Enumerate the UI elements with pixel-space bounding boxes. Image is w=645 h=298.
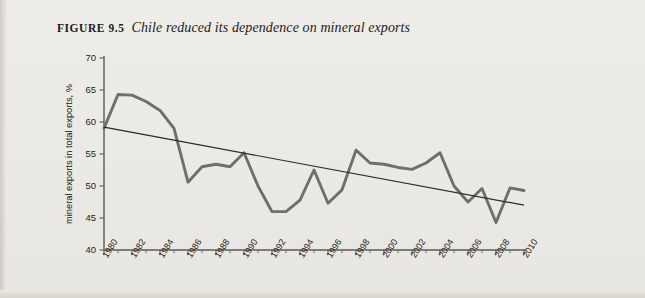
x-tick-label: 2002 [408,237,427,259]
x-tick-label: 1982 [128,237,147,259]
data-line [104,94,524,222]
figure-container: FIGURE 9.5Chile reduced its dependence o… [0,0,645,298]
line-chart-svg: 40455055606570 1980198219841986198819901… [0,0,645,298]
x-tick-label: 1992 [268,237,287,259]
x-tick-label: 2010 [520,237,539,259]
y-tick-label: 65 [85,84,96,95]
chart-series [104,94,524,222]
x-axis: 1980198219841986198819901992199419961998… [100,237,539,259]
x-tick-label: 1984 [156,237,175,259]
x-tick-label: 2004 [436,237,455,259]
x-tick-label: 1990 [240,237,259,259]
x-tick-label: 1980 [100,237,119,259]
x-tick-label: 1994 [296,237,315,259]
y-axis-title: mineral exports in total exports, % [64,84,74,224]
y-tick-label: 60 [85,116,96,127]
x-tick-label: 2008 [492,237,511,259]
y-tick-label: 45 [85,212,96,223]
y-axis: 40455055606570 [85,52,104,255]
x-tick-label: 1986 [184,237,203,259]
y-tick-label: 40 [85,244,96,255]
x-tick-label: 2006 [464,237,483,259]
x-tick-label: 1988 [212,237,231,259]
x-tick-label: 2000 [380,237,399,259]
y-tick-label: 50 [85,180,96,191]
y-tick-label: 70 [85,52,96,63]
trend-line [104,127,524,205]
x-tick-label: 1996 [324,237,343,259]
chart-plot-area: 40455055606570 1980198219841986198819901… [0,0,645,298]
x-tick-label: 1998 [352,237,371,259]
y-tick-label: 55 [85,148,96,159]
